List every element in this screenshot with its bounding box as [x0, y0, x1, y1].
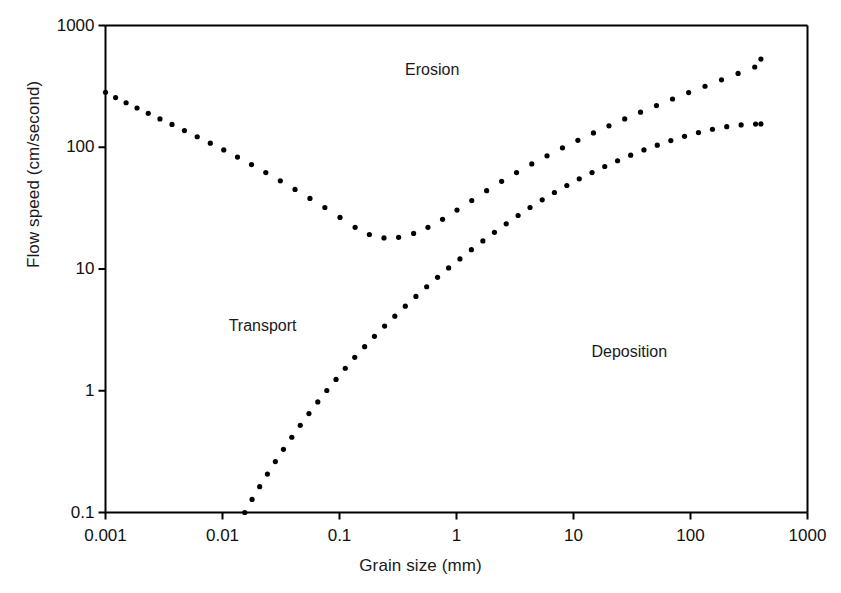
x-tick-label: 1000: [789, 526, 827, 546]
y-tick-label: 1000: [57, 16, 95, 36]
axes-spines: [106, 26, 808, 513]
x-tick-label: 1: [452, 526, 461, 546]
y-tick-label: 0.1: [71, 503, 95, 523]
region-label-deposition: Deposition: [592, 343, 668, 361]
y-tick-label: 10: [76, 259, 95, 279]
x-tick-label: 0.1: [328, 526, 352, 546]
x-tick-label: 100: [676, 526, 704, 546]
chart-canvas: [0, 0, 841, 593]
x-tick-label: 0.001: [84, 526, 127, 546]
series-0-dots: [103, 56, 764, 240]
x-axis-label: Grain size (mm): [0, 556, 841, 576]
y-tick-label: 100: [66, 137, 94, 157]
x-tick-label: 0.01: [206, 526, 239, 546]
hjulstrom-diagram-figure: Flow speed (cm/second) Grain size (mm) 0…: [0, 0, 841, 593]
y-tick-label: 1: [85, 381, 94, 401]
y-axis-label: Flow speed (cm/second): [24, 81, 44, 268]
x-tick-label: 10: [564, 526, 583, 546]
region-label-transport: Transport: [229, 317, 297, 335]
data-series-layer: [103, 56, 764, 515]
region-label-erosion: Erosion: [405, 61, 459, 79]
axis-tick-marks: [99, 26, 808, 520]
